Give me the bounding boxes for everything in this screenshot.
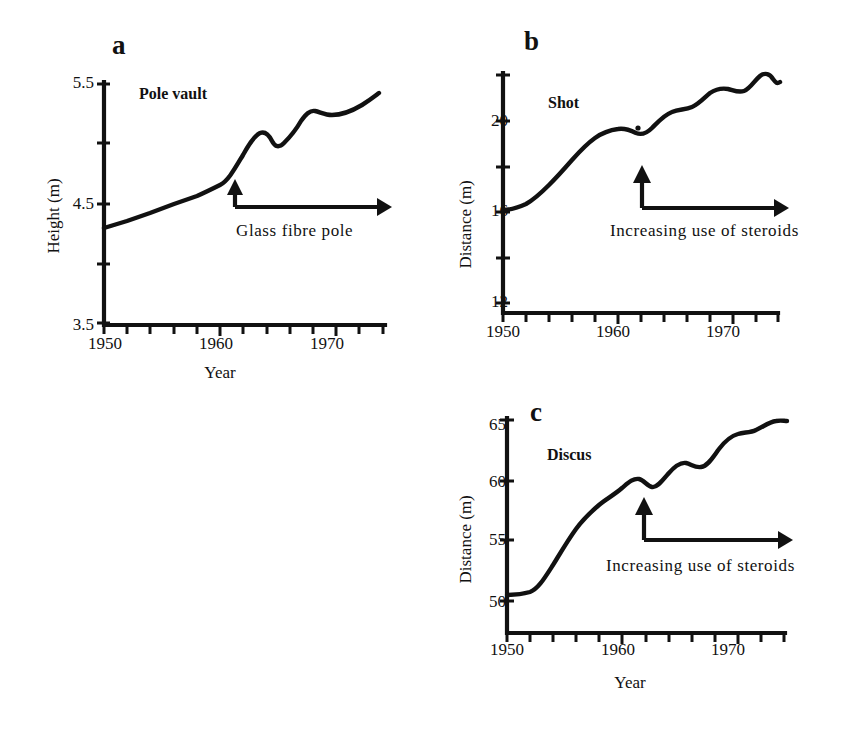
panel-b-shot: b Shot Distance (m) 20 16 12 1950 1960 1… — [420, 0, 851, 360]
panel-b-plot — [420, 0, 851, 360]
panel-a-plot — [0, 0, 420, 400]
panel-a-annotation-arrow — [227, 179, 392, 216]
panel-a-pole-vault: a Pole vault Height (m) 5.5 4.5 3.5 1950… — [0, 0, 420, 400]
panel-b-annotation-arrow — [633, 165, 789, 217]
figure-canvas: a Pole vault Height (m) 5.5 4.5 3.5 1950… — [0, 0, 851, 741]
panel-c-annotation-arrow — [635, 497, 793, 549]
panel-b-stray-dot — [635, 125, 640, 130]
panel-c-plot — [420, 385, 851, 741]
panel-a-axis-spine — [104, 82, 385, 325]
panel-c-discus: c Discus Distance (m) 65 60 55 50 1950 1… — [420, 385, 851, 741]
